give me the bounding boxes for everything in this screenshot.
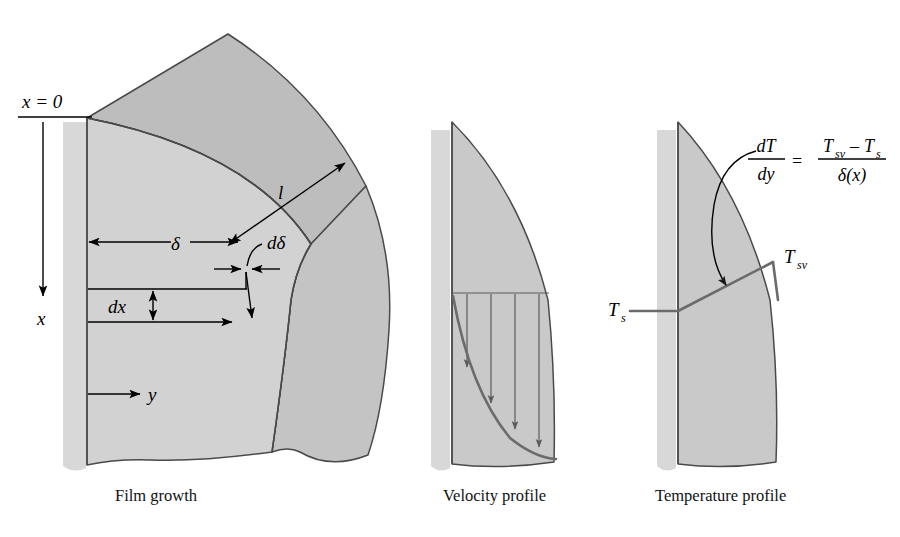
velocity-wall-shadow	[431, 130, 450, 471]
label-tsv-base: T	[784, 246, 796, 267]
label-tsv-subscript: sv	[797, 258, 808, 272]
label-dx: dx	[108, 296, 127, 317]
label-delta: δ	[171, 233, 181, 254]
label-y-axis: y	[146, 384, 157, 405]
caption-film-growth: Film growth	[115, 486, 198, 505]
equation-rhs-denominator: δ(x)	[838, 165, 866, 186]
figure-root: x = 0 x y δ dδ dx l Film growth	[0, 0, 900, 537]
wall-shadow-strip	[63, 122, 86, 471]
equation-minus-sign: –	[849, 136, 860, 156]
temperature-wall-shadow	[657, 130, 676, 471]
label-origin: x = 0	[21, 91, 63, 112]
label-length: l	[278, 182, 283, 203]
equation-equals-sign: =	[792, 151, 802, 171]
caption-temperature-profile: Temperature profile	[655, 486, 786, 505]
label-ts-base: T	[608, 299, 620, 320]
equation-lhs-denominator: dy	[758, 164, 775, 184]
label-d-delta: dδ	[267, 232, 287, 253]
equation-lhs-numerator: dT	[756, 136, 777, 156]
label-x-axis: x	[36, 308, 46, 329]
label-ts-subscript: s	[621, 311, 626, 325]
caption-velocity-profile: Velocity profile	[443, 486, 546, 505]
